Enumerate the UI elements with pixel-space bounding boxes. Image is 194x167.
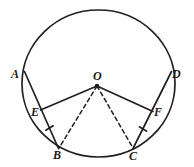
geometry-figure: A D O E F B C: [0, 0, 194, 167]
point-label-e: E: [31, 106, 39, 118]
segment-of: [97, 86, 153, 112]
point-label-a: A: [11, 68, 19, 80]
radius-ob-dashed: [59, 86, 97, 148]
point-label-b: B: [53, 149, 61, 161]
point-label-c: C: [129, 150, 137, 162]
point-label-f: F: [154, 106, 162, 118]
circle-outline: [22, 10, 175, 157]
radius-oc-dashed: [97, 86, 133, 148]
center-dot: [95, 84, 100, 89]
point-label-d: D: [172, 68, 181, 80]
figure-canvas: [0, 0, 194, 167]
segment-oe: [41, 86, 98, 110]
point-label-o: O: [93, 70, 102, 82]
